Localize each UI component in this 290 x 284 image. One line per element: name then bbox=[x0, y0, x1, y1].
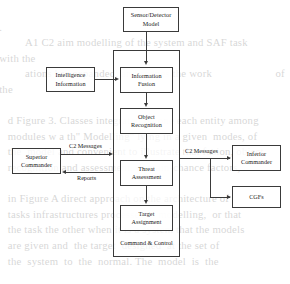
node-intelligence-information[interactable]: Intelligence Information bbox=[46, 67, 95, 92]
node-superior-commander[interactable]: Superior Commander bbox=[12, 148, 61, 174]
node-cgfs-line1: CGFs bbox=[249, 193, 264, 201]
node-object-recognition-line2: Recognition bbox=[131, 121, 162, 128]
arrowhead-object-to-threat bbox=[144, 155, 148, 159]
node-information-fusion[interactable]: Information Fusion bbox=[120, 67, 173, 93]
node-sensor-detector-model-line2: Model bbox=[143, 20, 159, 27]
arrowhead-c2-to-inferior-commander bbox=[227, 156, 231, 160]
node-inferior-commander-text: Inferior Commander bbox=[241, 150, 272, 166]
node-threat-assessment-line1: Threat bbox=[138, 165, 154, 172]
edge-intel-to-fusion bbox=[95, 79, 116, 80]
node-object-recognition[interactable]: Object Recognition bbox=[120, 108, 173, 134]
edge-object-to-threat bbox=[146, 134, 147, 157]
arrowhead-c2-messages-into-container bbox=[109, 152, 113, 156]
node-intelligence-information-text: Intelligence Information bbox=[55, 71, 85, 87]
node-target-assignment-line1: Target bbox=[139, 210, 155, 217]
arrowhead-fusion-to-object bbox=[144, 103, 148, 107]
node-inferior-commander-line1: Inferior bbox=[247, 150, 266, 157]
node-inferior-commander[interactable]: Inferior Commander bbox=[232, 145, 281, 171]
node-target-assignment-line2: Assignment bbox=[131, 218, 161, 225]
edge-c2-right-branch-down bbox=[210, 158, 211, 197]
arrowhead-sensor-to-fusion bbox=[144, 61, 148, 65]
edge-c2-left-riser bbox=[60, 154, 61, 173]
node-superior-commander-text: Superior Commander bbox=[21, 153, 52, 169]
node-inferior-commander-line2: Commander bbox=[241, 158, 272, 165]
node-cgfs[interactable]: CGFs bbox=[232, 186, 281, 208]
edge-label-c2-messages-left: C2 Messages bbox=[68, 142, 103, 150]
node-object-recognition-text: Object Recognition bbox=[131, 113, 162, 129]
edge-c2-right-from-container bbox=[180, 158, 230, 159]
node-target-assignment-text: Target Assignment bbox=[131, 210, 161, 226]
c2-process-diagram: Command & Control Sensor/Detector Model … bbox=[0, 0, 290, 284]
arrowhead-reports-to-superior bbox=[62, 170, 66, 174]
node-target-assignment[interactable]: Target Assignment bbox=[120, 205, 173, 231]
command-and-control-label: Command & Control bbox=[113, 239, 180, 247]
edge-reports-to-superior bbox=[66, 172, 113, 173]
edge-label-reports: Reports bbox=[76, 174, 97, 182]
diagram-page: . A1 C2 aim modelling of the system and … bbox=[0, 0, 290, 284]
node-sensor-detector-model-line1: Sensor/Detector bbox=[131, 11, 172, 18]
node-superior-commander-line2: Commander bbox=[21, 161, 52, 168]
node-intelligence-information-line2: Information bbox=[55, 80, 85, 87]
node-superior-commander-line1: Superior bbox=[26, 153, 48, 160]
node-information-fusion-line2: Fusion bbox=[138, 80, 155, 87]
arrowhead-intel-to-fusion bbox=[115, 77, 119, 81]
edge-c2-left-into-container bbox=[60, 154, 111, 155]
edge-label-c2-messages-right: C2 Messages bbox=[184, 147, 219, 155]
edge-sensor-to-fusion bbox=[146, 32, 147, 62]
node-intelligence-information-line1: Intelligence bbox=[56, 71, 86, 78]
node-information-fusion-line1: Information bbox=[131, 72, 161, 79]
node-sensor-detector-model[interactable]: Sensor/Detector Model bbox=[123, 7, 179, 32]
node-threat-assessment-text: Threat Assessment bbox=[132, 165, 162, 181]
node-sensor-detector-model-text: Sensor/Detector Model bbox=[131, 11, 172, 27]
node-object-recognition-line1: Object bbox=[138, 113, 155, 120]
node-information-fusion-text: Information Fusion bbox=[131, 72, 161, 88]
node-threat-assessment[interactable]: Threat Assessment bbox=[120, 160, 173, 186]
arrowhead-threat-to-target bbox=[144, 200, 148, 204]
arrowhead-c2-to-cgfs bbox=[227, 195, 231, 199]
node-threat-assessment-line2: Assessment bbox=[132, 173, 162, 180]
